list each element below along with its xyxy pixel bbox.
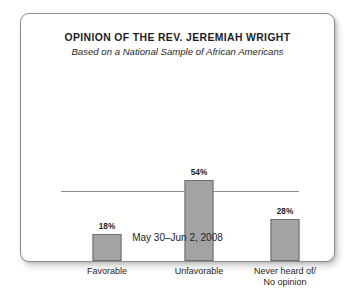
bar-category-line1: Unfavorable	[175, 266, 224, 276]
bar-category-label: Unfavorable	[175, 266, 224, 277]
bar-category-label: Never heard of/ No opinion	[254, 266, 316, 288]
chart-card: OPINION OF THE REV. JEREMIAH WRIGHT Base…	[20, 13, 335, 262]
bar-unfavorable[interactable]	[185, 180, 214, 261]
bar-category-line2: No opinion	[263, 277, 306, 287]
bar-category-line1: Favorable	[87, 266, 127, 276]
bar-value-label: 54%	[191, 168, 207, 177]
bar-value-label: 18%	[99, 222, 115, 231]
chart-footer-date: May 30–Jun 2, 2008	[21, 232, 334, 243]
bar-category-line1: Never heard of/	[254, 266, 316, 276]
bar-category-label: Favorable	[87, 266, 127, 277]
bar-value-label: 28%	[277, 207, 293, 216]
plot-area: 18% Favorable 54% Unfavorable 28% Never …	[21, 14, 334, 261]
